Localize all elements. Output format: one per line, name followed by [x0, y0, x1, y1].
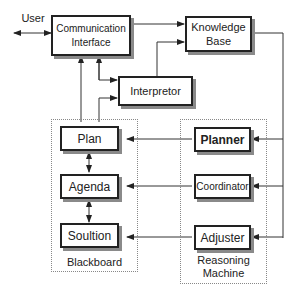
knowledge-base-line2: Base: [206, 34, 231, 48]
interpretor-label: Interpretor: [130, 84, 181, 98]
communication-interface-line1: Communication: [56, 22, 125, 36]
plan-label: Plan: [77, 132, 101, 146]
coordinator-label: Coordinator: [196, 180, 248, 194]
reasoning-machine-label: Reasoning Machine: [180, 254, 267, 280]
knowledge-base-line1: Knowledge: [191, 20, 245, 34]
planner-node: Planner: [194, 127, 251, 152]
adjuster-node: Adjuster: [194, 225, 251, 250]
plan-node: Plan: [60, 126, 119, 151]
communication-interface-line2: Interface: [72, 36, 111, 50]
agenda-node: Agenda: [60, 174, 119, 199]
solution-label: Soultion: [68, 229, 111, 243]
planner-label: Planner: [200, 133, 244, 147]
adjuster-label: Adjuster: [200, 231, 244, 245]
communication-interface-node: Communication Interface: [51, 15, 131, 56]
knowledge-base-node: Knowledge Base: [185, 16, 252, 52]
coordinator-node: Coordinator: [194, 174, 251, 199]
interpretor-node: Interpretor: [118, 76, 193, 106]
agenda-label: Agenda: [69, 180, 110, 194]
blackboard-label: Blackboard: [51, 256, 138, 269]
reasoning-machine-label-line2: Machine: [180, 267, 267, 280]
solution-node: Soultion: [60, 223, 119, 248]
reasoning-machine-label-line1: Reasoning: [180, 254, 267, 267]
user-label: User: [18, 12, 48, 25]
